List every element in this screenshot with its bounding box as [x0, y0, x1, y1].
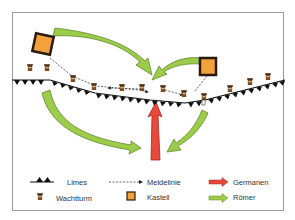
legend-label-limes: Limes — [67, 178, 87, 187]
legend-label-roemer: Römer — [233, 193, 256, 202]
legend-label-wachtturm: Wachtturm — [56, 194, 92, 203]
legend-kastell: Kastell — [127, 192, 170, 202]
legend-label-kastell: Kastell — [147, 193, 170, 202]
legend-label-meldelinie: Meldelinie — [147, 178, 181, 187]
legend-label-germanen: Germanen — [233, 178, 268, 187]
kastell-east — [200, 58, 216, 75]
limes-defense-diagram: Limes Meldelinie Germanen Wachtturm Kast… — [0, 0, 295, 220]
kastell-west — [32, 33, 53, 54]
limes-gate-east — [202, 100, 205, 105]
